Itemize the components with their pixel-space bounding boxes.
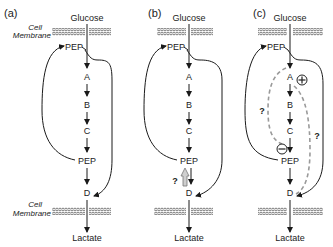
metabolite-b: B xyxy=(287,100,293,110)
metabolite-pep: PEP xyxy=(78,156,96,166)
cell-membrane-bottom-right xyxy=(293,207,323,215)
cell-membrane-top-left xyxy=(157,28,186,36)
cell-membrane-bottom-left xyxy=(258,207,287,215)
panel-label-a: (a) xyxy=(4,7,17,19)
metabolite-d: D xyxy=(186,188,193,198)
metabolite-pep: PEP xyxy=(281,156,299,166)
glucose-label: Glucose xyxy=(70,13,103,23)
pts-to-d-loop xyxy=(187,50,222,196)
cell-membrane-bottom-left xyxy=(52,207,85,215)
metabolite-c: C xyxy=(186,126,193,136)
glucose-label: Glucose xyxy=(273,13,306,23)
metabolite-c: C xyxy=(287,126,294,136)
panel-a: (a) Glucose Cell Membrane PEP A B C PEP … xyxy=(4,7,112,243)
membrane-label-bottom-1: Cell xyxy=(28,200,42,209)
metabolite-b: B xyxy=(84,100,90,110)
cell-membrane-top-right xyxy=(293,28,323,36)
pep-feedback-label: PEP xyxy=(267,42,285,52)
metabolite-d: D xyxy=(287,188,294,198)
metabolic-pathway-diagram: (a) Glucose Cell Membrane PEP A B C PEP … xyxy=(0,0,333,247)
glucose-label: Glucose xyxy=(172,13,205,23)
metabolite-a: A xyxy=(186,72,192,82)
membrane-label-top-2: Membrane xyxy=(13,31,52,40)
metabolite-a: A xyxy=(84,72,90,82)
membrane-label-bottom-2: Membrane xyxy=(13,209,52,218)
right-question-mark: ? xyxy=(314,131,320,141)
inhibition-minus-icon xyxy=(277,144,287,154)
metabolite-b: B xyxy=(186,100,192,110)
cell-membrane-top-right xyxy=(89,28,111,36)
pep-feedback-loop xyxy=(42,46,75,160)
cell-membrane-top-left xyxy=(52,28,85,36)
panel-label-c: (c) xyxy=(253,7,266,19)
pep-feedback-loop xyxy=(144,46,177,160)
pts-to-d-loop xyxy=(288,50,323,196)
reverse-flux-question: ? xyxy=(172,176,178,186)
activation-plus-icon xyxy=(297,75,307,85)
cell-membrane-bottom-right xyxy=(191,207,213,215)
panel-b: (b) Glucose PEP A B C PEP ? D Lactate xyxy=(144,7,222,243)
reverse-flux-arrow xyxy=(181,168,189,186)
lactate-label: Lactate xyxy=(174,233,204,243)
metabolite-a: A xyxy=(287,72,293,82)
left-question-mark: ? xyxy=(259,106,265,116)
cell-membrane-bottom-left xyxy=(154,207,186,215)
pep-feedback-label: PEP xyxy=(65,42,83,52)
cell-membrane-top-right xyxy=(191,28,213,36)
metabolite-pep: PEP xyxy=(180,156,198,166)
pep-feedback-label: PEP xyxy=(167,42,185,52)
panel-c: (c) Glucose PEP A B C PEP D Lactate xyxy=(245,7,323,243)
metabolite-d: D xyxy=(84,188,91,198)
metabolite-c: C xyxy=(84,126,91,136)
panel-label-b: (b) xyxy=(148,7,161,19)
activation-dashed-loop xyxy=(294,86,310,194)
cell-membrane-top-left xyxy=(258,28,287,36)
pep-feedback-loop xyxy=(245,46,278,160)
lactate-label: Lactate xyxy=(275,233,305,243)
lactate-label: Lactate xyxy=(72,233,102,243)
inhibition-dashed-loop xyxy=(268,68,286,144)
cell-membrane-bottom-right xyxy=(89,207,111,215)
